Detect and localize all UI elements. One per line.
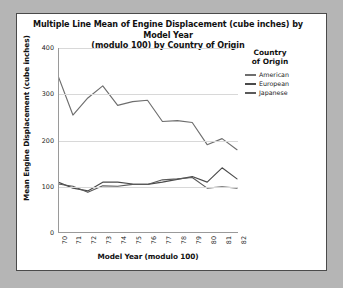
x-tick-label: 73 [105,236,113,244]
legend-item-european[interactable]: European [245,79,325,88]
legend: Country of Origin AmericanEuropeanJapane… [241,48,325,97]
legend-item-label: European [259,80,289,87]
x-tick-label: 72 [90,236,98,244]
x-tick-label: 77 [165,236,173,244]
chart-card: Multiple Line Mean of Engine Displacemen… [16,13,327,271]
gridline [58,48,238,49]
x-axis-line [58,232,238,233]
y-tick-label: 300 [42,90,54,98]
y-tick-label: 200 [42,137,54,145]
legend-swatch-icon [245,74,256,76]
legend-swatch-icon [245,83,256,85]
x-tick-label: 80 [210,236,218,244]
y-tick-label: 0 [50,229,54,237]
gridline [58,187,238,188]
series-line-american [58,76,237,150]
x-tick-label: 76 [150,236,158,244]
y-axis-line [58,48,59,233]
x-axis-title: Model Year (modulo 100) [58,252,238,261]
legend-item-american[interactable]: American [245,70,325,79]
y-axis-title: Mean Engine Displacement (cube inches) [22,61,31,201]
legend-title: Country of Origin [241,48,299,66]
legend-item-label: American [259,71,289,78]
x-tick-label: 74 [120,236,128,244]
x-tick-label: 81 [225,236,233,244]
x-tick-label: 78 [180,236,188,244]
gridline [58,141,238,142]
plot-area: 0100200300400 70717273747576777879808182 [58,48,238,233]
legend-title-line-1: Country [253,48,286,57]
legend-swatch-icon [245,92,256,94]
x-tick-label: 71 [75,236,83,244]
y-tick-label: 400 [42,44,54,52]
legend-title-line-2: of Origin [252,57,288,66]
gridline [58,94,238,95]
y-tick-label: 100 [42,183,54,191]
legend-item-japanese[interactable]: Japanese [245,88,325,97]
x-tick-label: 82 [240,236,248,244]
legend-items: AmericanEuropeanJapanese [245,70,325,97]
x-tick-label: 75 [135,236,143,244]
x-tick-label: 70 [61,236,69,244]
legend-item-label: Japanese [259,89,288,96]
x-tick-label: 79 [195,236,203,244]
